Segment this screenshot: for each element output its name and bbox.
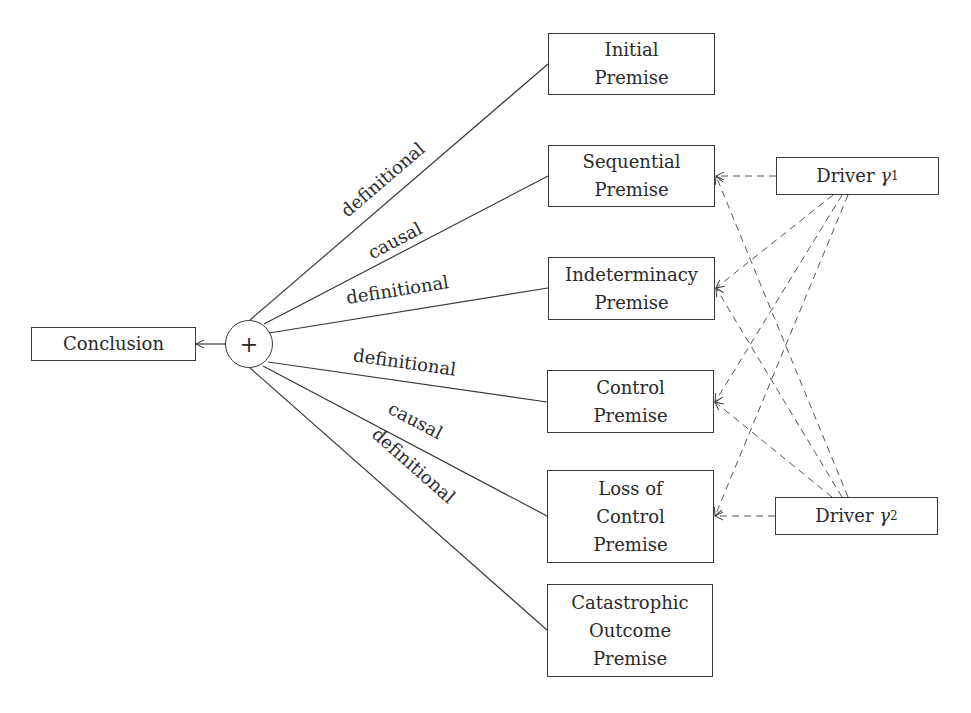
premise-loss-of-control: Loss of Control Premise — [547, 470, 714, 563]
driver-gamma-1: Driver γ1 — [776, 157, 939, 195]
edge-sequential — [264, 176, 548, 324]
premise-line: Catastrophic — [571, 589, 688, 617]
premise-sequential: Sequential Premise — [548, 145, 715, 207]
premise-line: Premise — [593, 402, 667, 430]
premise-catastrophic: Catastrophic Outcome Premise — [547, 584, 713, 677]
premise-control: Control Premise — [547, 370, 714, 433]
premise-line: Premise — [594, 176, 668, 204]
aggregator-plus-node: + — [225, 320, 273, 368]
driver-subscript: 2 — [890, 502, 898, 530]
premise-line: Control — [596, 503, 665, 531]
premise-line: Premise — [593, 531, 667, 559]
premise-initial: Initial Premise — [548, 33, 715, 95]
driver-label: Driver — [815, 502, 873, 530]
gamma-symbol: γ — [880, 162, 891, 190]
premise-line: Premise — [593, 645, 667, 673]
premise-line: Sequential — [583, 148, 681, 176]
premise-line: Indeterminacy — [565, 261, 698, 289]
driver1-to-control — [715, 195, 842, 402]
premise-line: Premise — [594, 64, 668, 92]
plus-icon: + — [240, 332, 258, 357]
premise-line: Control — [596, 374, 665, 402]
premise-line: Initial — [605, 36, 659, 64]
premise-line: Premise — [594, 289, 668, 317]
premise-indeterminacy: Indeterminacy Premise — [548, 257, 715, 320]
premise-line: Outcome — [589, 617, 671, 645]
driver-subscript: 1 — [891, 162, 899, 190]
driver-gamma-2: Driver γ2 — [775, 497, 938, 535]
driver2-to-indeterminacy — [716, 288, 842, 497]
driver-label: Driver — [816, 162, 874, 190]
driver1-to-loss-of-control — [715, 195, 848, 516]
edge-loss-of-control — [263, 366, 547, 516]
conclusion-label: Conclusion — [63, 330, 164, 358]
gamma-symbol: γ — [879, 502, 890, 530]
premise-line: Loss of — [598, 475, 663, 503]
conclusion-node: Conclusion — [31, 327, 196, 361]
driver2-to-sequential — [716, 176, 848, 497]
